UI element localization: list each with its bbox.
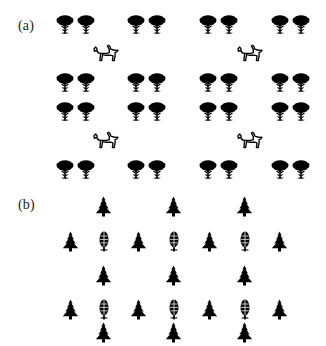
broadleaf-tree-icon: [127, 159, 145, 181]
broadleaf-tree-icon: [56, 72, 74, 94]
broadleaf-tree-icon: [292, 101, 310, 123]
oval-tree-icon: [239, 298, 251, 320]
fir-tree-icon: [130, 299, 147, 320]
broadleaf-tree-icon: [127, 101, 145, 123]
broadleaf-tree-icon: [271, 101, 289, 123]
broadleaf-tree-icon: [56, 14, 74, 36]
broadleaf-tree-icon: [56, 101, 74, 123]
broadleaf-tree-icon: [271, 72, 289, 94]
dog-icon: [237, 44, 263, 62]
broadleaf-tree-icon: [220, 72, 238, 94]
broadleaf-tree-icon: [292, 159, 310, 181]
fir-tree-icon: [165, 265, 182, 286]
broadleaf-tree-icon: [220, 159, 238, 181]
oval-tree-icon: [168, 230, 180, 252]
fir-tree-icon: [62, 231, 79, 252]
broadleaf-tree-icon: [292, 72, 310, 94]
panel-a-label: (a): [18, 19, 34, 33]
broadleaf-tree-icon: [148, 101, 166, 123]
fir-tree-icon: [95, 265, 112, 286]
oval-tree-icon: [168, 298, 180, 320]
broadleaf-tree-icon: [127, 14, 145, 36]
oval-tree-icon: [98, 298, 110, 320]
fir-tree-icon: [95, 322, 112, 343]
panel-b-label: (b): [18, 198, 35, 212]
fir-tree-icon: [201, 231, 218, 252]
broadleaf-tree-icon: [148, 72, 166, 94]
fir-tree-icon: [271, 231, 288, 252]
fir-tree-icon: [201, 299, 218, 320]
broadleaf-tree-icon: [56, 159, 74, 181]
fir-tree-icon: [130, 231, 147, 252]
broadleaf-tree-icon: [199, 14, 217, 36]
broadleaf-tree-icon: [148, 159, 166, 181]
broadleaf-tree-icon: [77, 72, 95, 94]
fir-tree-icon: [62, 299, 79, 320]
fir-tree-icon: [271, 299, 288, 320]
fir-tree-icon: [165, 196, 182, 217]
fir-tree-icon: [95, 196, 112, 217]
broadleaf-tree-icon: [271, 159, 289, 181]
broadleaf-tree-icon: [292, 14, 310, 36]
fir-tree-icon: [236, 265, 253, 286]
broadleaf-tree-icon: [199, 101, 217, 123]
broadleaf-tree-icon: [199, 159, 217, 181]
broadleaf-tree-icon: [77, 14, 95, 36]
broadleaf-tree-icon: [271, 14, 289, 36]
oval-tree-icon: [239, 230, 251, 252]
figure-canvas: (a) (b): [0, 0, 326, 346]
broadleaf-tree-icon: [220, 101, 238, 123]
fir-tree-icon: [165, 322, 182, 343]
dog-icon: [93, 131, 119, 149]
oval-tree-icon: [98, 230, 110, 252]
broadleaf-tree-icon: [199, 72, 217, 94]
dog-icon: [93, 44, 119, 62]
broadleaf-tree-icon: [148, 14, 166, 36]
panel-b: [0, 186, 326, 346]
broadleaf-tree-icon: [220, 14, 238, 36]
broadleaf-tree-icon: [77, 101, 95, 123]
fir-tree-icon: [236, 196, 253, 217]
broadleaf-tree-icon: [77, 159, 95, 181]
dog-icon: [237, 131, 263, 149]
fir-tree-icon: [236, 322, 253, 343]
broadleaf-tree-icon: [127, 72, 145, 94]
